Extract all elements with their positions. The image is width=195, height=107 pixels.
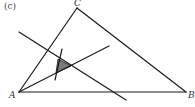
vertex-label-c: C (74, 0, 81, 8)
line-2 (19, 46, 109, 92)
vertex-label-b: B (187, 90, 195, 100)
figure-tag: (c) (4, 1, 16, 11)
triangle-diagram: (c) A B C (0, 0, 195, 107)
line-1 (19, 32, 126, 100)
vertex-label-a: A (8, 90, 16, 100)
